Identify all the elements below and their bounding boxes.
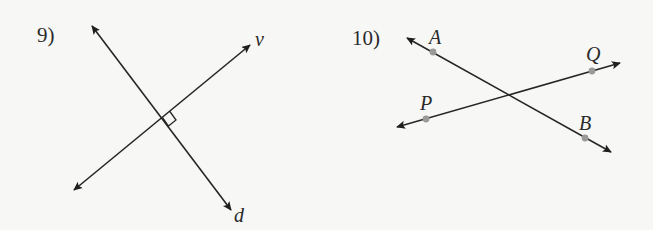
problem-number-9: 9) — [37, 23, 55, 47]
geometry-figure: 9) v d 10) A B P Q — [0, 0, 653, 230]
label-B: B — [579, 112, 591, 134]
label-d: d — [234, 204, 245, 226]
problem-number-10: 10) — [352, 26, 380, 50]
point-B — [582, 135, 589, 142]
label-v: v — [255, 28, 264, 50]
line-v — [74, 45, 250, 190]
problem-9: 9) v d — [37, 23, 264, 226]
label-P: P — [419, 92, 432, 114]
label-Q: Q — [586, 43, 601, 65]
point-A — [430, 49, 437, 56]
point-P — [423, 116, 430, 123]
point-Q — [589, 68, 596, 75]
label-A: A — [427, 26, 442, 48]
problem-10: 10) A B P Q — [352, 26, 620, 152]
right-angle-marker — [163, 111, 176, 126]
